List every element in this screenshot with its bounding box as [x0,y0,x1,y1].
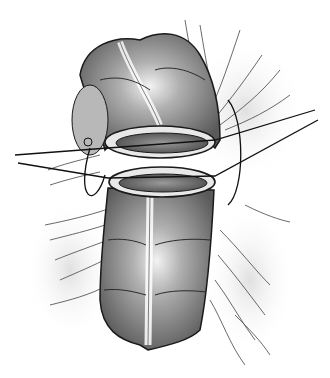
lower-cut-end [109,167,215,197]
anastomosis-illustration [0,0,330,378]
lower-bowel-segment [100,188,214,350]
upper-cut-end [105,126,215,158]
